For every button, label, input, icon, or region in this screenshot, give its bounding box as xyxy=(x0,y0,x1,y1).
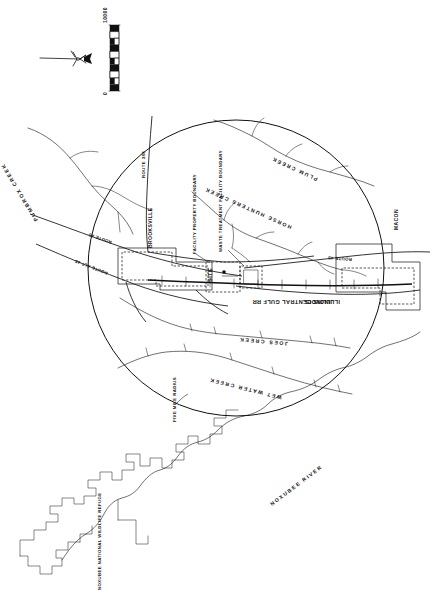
scale-bar-max-label: 10000 xyxy=(102,7,108,23)
road-label-route-45-west: ROUTE 45 xyxy=(88,232,113,245)
site-location-map: 10000 0 PUMBROX CREEK PLUM CREEK HORSE H… xyxy=(0,0,440,601)
waste-treatment-facility-boundary-label: WASTE TREATMENT FACILITY BOUNDARY xyxy=(218,150,223,252)
road-route-alt-45-branch xyxy=(126,282,146,322)
road-minor-1 xyxy=(148,252,224,262)
scale-bar: 10000 0 xyxy=(102,7,120,95)
road-minor-2 xyxy=(224,256,314,262)
town-label-brooksville: BROOKSVILLE xyxy=(147,207,153,248)
waterway-noxubee-river xyxy=(62,332,420,560)
waterway-pumbrox-creek xyxy=(28,128,152,234)
road-route-45-west xyxy=(30,214,242,276)
waterway-label-noxubee-river: NOXUBEE RIVER xyxy=(269,464,324,507)
road-minor-3 xyxy=(236,286,420,294)
road-route-alt-45 xyxy=(36,244,228,306)
road-label-route-alt-45: ROUTE ALT 45 xyxy=(74,258,109,275)
waterway-label-wet-water-creek: WET WATER CREEK xyxy=(208,377,282,401)
leader-facility-property-boundary xyxy=(196,254,208,262)
five-mile-radius-label: FIVE MILE RADIUS xyxy=(172,377,177,422)
site-marker-dot xyxy=(222,270,226,274)
north-arrow-icon xyxy=(40,51,92,66)
five-mile-radius-circle xyxy=(88,120,384,416)
leader-five-mile-radius xyxy=(176,394,188,404)
wildlife-refuge-boundary xyxy=(20,410,238,574)
waterway-label-horse-hunters-creek: HORSE HUNTERS CREEK xyxy=(203,186,292,230)
waterway-plum-creek xyxy=(214,118,374,186)
site-label: SITE xyxy=(207,268,213,282)
map-canvas: 10000 0 PUMBROX CREEK PLUM CREEK HORSE H… xyxy=(0,0,440,601)
leader-waste-treatment-boundary xyxy=(228,250,244,266)
town-brooksville-outline xyxy=(118,248,212,290)
town-label-macon: MACON xyxy=(393,209,399,230)
railroad-illinois-central-gulf xyxy=(148,280,412,286)
facility-property-boundary-label: FACILITY PROPERTY BOUNDARY xyxy=(192,174,197,254)
waterway-label-joes-creek: JOES CREEK xyxy=(238,337,288,347)
road-label-route-388: ROUTE 388 xyxy=(141,151,146,178)
wildlife-refuge-label: NOXUBEE NATIONAL WILDLIFE REFUGE xyxy=(97,492,102,590)
scale-bar-min-label: 0 xyxy=(102,92,108,95)
waterway-label-pumbrox-creek: PUMBROX CREEK xyxy=(0,162,39,222)
region-label-illinois: ILLINOIS xyxy=(305,299,332,305)
